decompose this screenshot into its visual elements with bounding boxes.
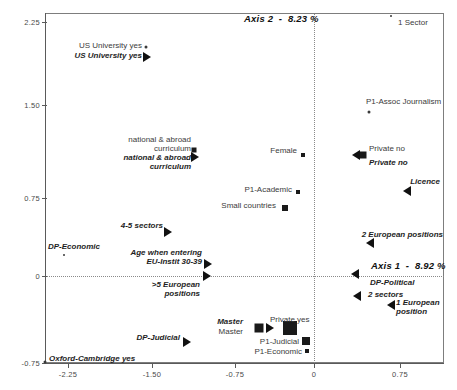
x-tick-label: 0.75 — [392, 370, 408, 379]
y-tick-label: 2.25 — [24, 18, 40, 27]
y-tick-mark — [42, 198, 47, 199]
vertical-zero-axis — [314, 14, 315, 363]
y-tick-label: 0.75 — [24, 194, 40, 203]
point-label: Female — [270, 147, 297, 156]
point-label: national & abroad curriculum — [128, 136, 191, 153]
y-tick-label: 0 — [36, 272, 40, 281]
point-label: Private no — [369, 145, 405, 154]
point-label: Private no — [369, 159, 408, 168]
point-label: DP-Judicial — [136, 334, 180, 343]
point-label: 2 European positions — [362, 231, 443, 240]
point-label: P1-Academic — [244, 186, 292, 195]
point-marker-triangle-right-icon — [204, 259, 212, 269]
point-marker-square — [255, 324, 264, 333]
point-label: DP-Economic — [48, 243, 100, 252]
point-label: DP-Political — [370, 279, 414, 288]
x-tick-label: -2.25 — [59, 370, 78, 379]
point-marker-dot — [63, 254, 65, 256]
point-label: Licence — [410, 178, 440, 187]
point-marker-triangle-right-icon — [191, 152, 199, 162]
point-marker-triangle-left-icon — [352, 150, 360, 160]
x-tick-mark — [400, 363, 401, 368]
point-marker-square — [302, 337, 310, 345]
point-label: >5 European positions — [152, 281, 200, 298]
point-marker-triangle-right-icon — [164, 227, 172, 237]
point-label: P1-Economic — [254, 348, 302, 357]
point-marker-triangle-left-icon — [403, 186, 411, 196]
point-marker-triangle-left-icon — [387, 300, 395, 310]
point-label: 1 European position — [396, 299, 440, 316]
point-marker-triangle-left-icon — [353, 291, 361, 301]
point-marker-dot — [368, 111, 371, 114]
point-marker-square — [305, 349, 309, 353]
y-tick-label: 1.50 — [24, 101, 40, 110]
point-label: Master — [217, 318, 243, 327]
x-tick-label: 0 — [312, 370, 316, 379]
x-tick-label: -1.50 — [143, 370, 162, 379]
point-marker-dot — [44, 361, 47, 364]
point-marker-triangle-right-icon — [183, 337, 191, 347]
point-label: P1-Assoc Journalism — [366, 98, 441, 107]
point-marker-square — [282, 205, 288, 211]
point-marker-dot — [390, 15, 392, 17]
point-label: US University yes — [74, 52, 142, 61]
point-marker-square — [296, 190, 300, 194]
x-tick-mark — [235, 363, 236, 368]
x-tick-mark — [68, 363, 69, 368]
point-label: national & abroad curriculum — [123, 154, 191, 171]
point-marker-triangle-left-icon — [351, 269, 359, 279]
y-tick-label: -0.75 — [21, 359, 40, 368]
axis2-title: Axis 2 - 8.23 % — [244, 13, 319, 24]
point-label: Small countries — [221, 202, 276, 211]
point-marker-square — [360, 152, 367, 159]
point-label: 4-5 sectors — [121, 222, 163, 231]
y-tick-mark — [42, 105, 47, 106]
y-tick-mark — [42, 276, 47, 277]
x-tick-mark — [314, 363, 315, 368]
point-label: Oxford-Cambridge yes — [49, 355, 135, 364]
point-marker-square — [301, 153, 305, 157]
point-marker-triangle-right-icon — [203, 271, 211, 281]
point-label: 1 Sector — [398, 19, 428, 28]
point-marker-dot — [145, 46, 148, 49]
point-label: P1-Judicial — [260, 338, 299, 347]
point-label: Age when entering EU-Instit 30-39 — [130, 249, 202, 266]
y-axis-line — [45, 13, 46, 364]
axis1-title: Axis 1 - 8.92 % — [371, 260, 446, 271]
point-marker-triangle-right-icon — [143, 52, 151, 62]
correspondence-analysis-plot: -2.25-1.50-0.7500.75 2.251.500.750-0.75 … — [0, 0, 457, 390]
horizontal-zero-axis — [46, 276, 444, 277]
x-tick-label: -0.75 — [226, 370, 245, 379]
x-tick-mark — [152, 363, 153, 368]
point-label: US University yes — [79, 42, 142, 51]
point-label: Private yes — [270, 316, 310, 325]
point-label: Master — [219, 328, 243, 337]
y-tick-mark — [42, 22, 47, 23]
